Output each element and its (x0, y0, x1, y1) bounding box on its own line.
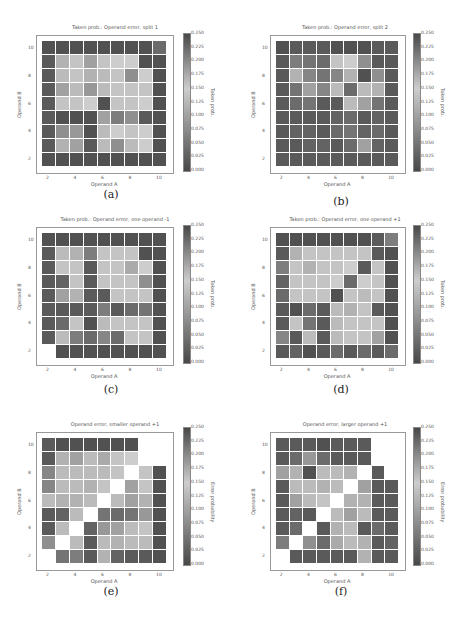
heatmap-cell (385, 331, 398, 344)
heatmap-cell (317, 233, 330, 246)
heatmap-cell (56, 508, 69, 521)
heatmap-cell (42, 345, 55, 358)
heatmap-cell (344, 480, 357, 493)
heatmap-cell (358, 494, 371, 507)
heatmap-cell (153, 111, 166, 124)
colorbar-tick-label: 0.000 (191, 561, 204, 566)
heatmap-cell (139, 466, 152, 479)
heatmap-cell (331, 452, 344, 465)
colorbar-tick-label: 0.050 (421, 332, 434, 337)
heatmap-cell (84, 55, 97, 68)
heatmap-cell (42, 139, 55, 152)
heatmap-cell (317, 522, 330, 535)
heatmap-cell (331, 303, 344, 316)
heatmap-cell (42, 111, 55, 124)
heatmap-cell (84, 41, 97, 54)
heatmap-cell (358, 41, 371, 54)
heatmap-cell (344, 97, 357, 110)
heatmap-cell (111, 480, 124, 493)
heatmap-cell (111, 69, 124, 82)
y-tick-label: 2 (28, 553, 31, 558)
heatmap-cell (42, 55, 55, 68)
y-tick-label: 8 (28, 470, 31, 475)
heatmap-cell (385, 452, 398, 465)
heatmap-cell (125, 111, 138, 124)
heatmap-cell (372, 233, 385, 246)
heatmap-cell (153, 125, 166, 138)
heatmap-cell (358, 466, 371, 479)
heatmap-cell (42, 550, 55, 563)
heatmap-cell (290, 261, 303, 274)
heatmap-cell (290, 111, 303, 124)
heatmap-cell (153, 41, 166, 54)
colorbar-tick-label: 0.100 (421, 506, 434, 511)
y-tick-label: 6 (262, 293, 265, 298)
heatmap-cell (385, 261, 398, 274)
heatmap-cell (42, 233, 55, 246)
heatmap-cell (139, 331, 152, 344)
heatmap-cell (70, 233, 83, 246)
heatmap-cell (358, 153, 371, 166)
heatmap-cell (98, 261, 111, 274)
heatmap-cell (303, 97, 316, 110)
heatmap-cell (317, 550, 330, 563)
heatmap-grid (276, 233, 398, 358)
colorbar-tick-label: 0.150 (191, 479, 204, 484)
x-tick-label: 6 (101, 367, 104, 372)
heatmap-grid (42, 41, 166, 166)
heatmap-cell (111, 97, 124, 110)
y-tick-label: 4 (28, 525, 31, 530)
heatmap-cell (98, 139, 111, 152)
heatmap-cell (84, 550, 97, 563)
heatmap-cell (317, 452, 330, 465)
heatmap-cell (111, 83, 124, 96)
heatmap-cell (42, 125, 55, 138)
heatmap-cell (125, 125, 138, 138)
heatmap-cell (153, 275, 166, 288)
heatmap-cell (385, 97, 398, 110)
colorbar-tick-label: 0.050 (421, 140, 434, 145)
heatmap-cell (42, 494, 55, 507)
heatmap-cell (56, 125, 69, 138)
subfigure-caption: (a) (91, 188, 131, 201)
heatmap-cell (84, 153, 97, 166)
heatmap-cell (317, 153, 330, 166)
heatmap-cell (317, 261, 330, 274)
colorbar-tick-label: 0.100 (191, 304, 204, 309)
heatmap-cell (276, 83, 289, 96)
heatmap-cell (42, 153, 55, 166)
heatmap-cell (84, 345, 97, 358)
x-axis-label: Operand A (64, 373, 144, 379)
heatmap-cell (56, 480, 69, 493)
heatmap-cell (98, 508, 111, 521)
heatmap-cell (70, 41, 83, 54)
heatmap-cell (372, 536, 385, 549)
heatmap-cell (317, 317, 330, 330)
heatmap-cell (303, 345, 316, 358)
colorbar-tick-label: 0.250 (421, 30, 434, 35)
colorbar-tick-label: 0.150 (421, 85, 434, 90)
heatmap-grid (42, 233, 166, 358)
heatmap-cell (276, 261, 289, 274)
heatmap-cell (317, 97, 330, 110)
heatmap-cell (344, 83, 357, 96)
heatmap-cell (358, 261, 371, 274)
subfigure-caption: (d) (321, 383, 361, 396)
heatmap-cell (153, 139, 166, 152)
heatmap-cell (56, 522, 69, 535)
heatmap-cell (56, 345, 69, 358)
colorbar (413, 225, 421, 364)
heatmap-cell (344, 494, 357, 507)
heatmap-cell (344, 522, 357, 535)
heatmap-cell (331, 345, 344, 358)
heatmap-cell (385, 111, 398, 124)
heatmap-cell (385, 508, 398, 521)
heatmap-cell (98, 331, 111, 344)
heatmap-cell (358, 331, 371, 344)
x-tick-label: 10 (388, 175, 394, 180)
heatmap-cell (70, 55, 83, 68)
heatmap-cell (70, 247, 83, 260)
heatmap-cell (290, 153, 303, 166)
colorbar-tick-label: 0.000 (421, 167, 434, 172)
heatmap-cell (385, 494, 398, 507)
